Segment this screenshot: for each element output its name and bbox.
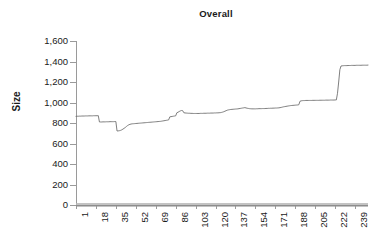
y-tick-label: 800 (22, 118, 68, 128)
x-tick-label: 18 (100, 212, 110, 223)
x-tick-label: 86 (180, 212, 190, 223)
x-tick-label: 1 (80, 212, 90, 217)
x-tick-label: 205 (319, 212, 329, 228)
x-tick-label: 35 (120, 212, 130, 223)
x-tick (176, 206, 177, 209)
x-tick (335, 206, 336, 209)
y-tick-label: 1,600 (22, 36, 68, 46)
x-tick-label: 188 (299, 212, 309, 228)
data-series-overall (76, 41, 368, 205)
x-tick (116, 206, 117, 209)
x-tick-label: 52 (140, 212, 150, 223)
x-tick (76, 206, 77, 209)
x-tick (355, 206, 356, 209)
x-tick-label: 69 (160, 212, 170, 223)
x-tick-label: 239 (359, 212, 369, 228)
chart-container: Overall Size 02004006008001,0001,2001,40… (0, 0, 384, 251)
y-tick-label: 1,400 (22, 57, 68, 67)
x-tick (96, 206, 97, 209)
x-tick-label: 154 (259, 212, 269, 228)
x-tick (315, 206, 316, 209)
y-tick-label: 1,200 (22, 77, 68, 87)
x-tick (275, 206, 276, 209)
y-tick-label: 400 (22, 159, 68, 169)
y-tick-label: 600 (22, 139, 68, 149)
x-tick (196, 206, 197, 209)
x-tick (156, 206, 157, 209)
chart-title: Overall (24, 8, 384, 19)
x-tick (216, 206, 217, 209)
x-tick-label: 103 (200, 212, 210, 228)
y-tick-label: 0 (22, 200, 68, 210)
x-tick-label: 222 (339, 212, 349, 228)
x-tick-label: 137 (239, 212, 249, 228)
x-tick (136, 206, 137, 209)
x-tick (255, 206, 256, 209)
y-axis-tick-labels: 02004006008001,0001,2001,4001,600 (18, 0, 68, 251)
y-tick-label: 200 (22, 180, 68, 190)
x-tick-label: 171 (279, 212, 289, 228)
plot-area (76, 41, 368, 205)
x-tick (295, 206, 296, 209)
x-tick (235, 206, 236, 209)
x-tick-label: 120 (220, 212, 230, 228)
x-axis-line (76, 205, 368, 206)
y-tick-label: 1,000 (22, 98, 68, 108)
